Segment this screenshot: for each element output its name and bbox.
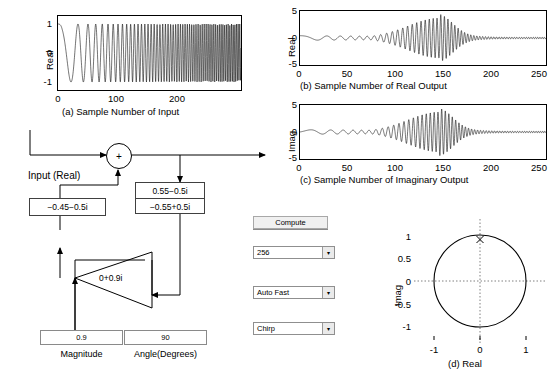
compute-button-label: Compute (275, 218, 305, 227)
chart-c-xtick-2: 100 (384, 162, 406, 173)
angle-field[interactable]: 90 (124, 330, 207, 345)
chart-a-axes (57, 15, 242, 91)
chart-b-xtick-1: 50 (339, 68, 355, 79)
compute-button[interactable]: Compute (253, 216, 328, 229)
gain-feed-path (152, 214, 180, 295)
chart-c-xtick-0: 0 (293, 162, 305, 173)
angle-label: Angle(Degrees) (124, 349, 207, 359)
chart-c-xtick-3: 150 (432, 162, 454, 173)
length-select[interactable]: 256 ▾ (253, 246, 335, 259)
chart-a-caption: (a) Sample Number of Input (62, 106, 179, 117)
magnitude-value: 0.9 (76, 333, 86, 342)
chart-b-ytick-1: 0 (289, 32, 297, 43)
chart-b-xtick-5: 250 (528, 68, 550, 79)
feedback-coef-top: 0.55−0.5i (136, 183, 204, 199)
length-select-value: 256 (254, 248, 322, 257)
chart-c-xtick-5: 250 (528, 162, 550, 173)
left-coefficient-box: −0.45−0.5i (29, 198, 106, 216)
angle-value: 90 (161, 333, 169, 342)
chart-b-xtick-2: 100 (384, 68, 406, 79)
chart-d-xtick-0: -1 (424, 344, 444, 355)
signal-select[interactable]: Chirp ▾ (253, 322, 335, 335)
chart-a-ytick-1: 0 (40, 47, 52, 58)
chart-c-trace (300, 105, 546, 159)
chart-b-ytick-0: 5 (289, 5, 297, 16)
input-path (30, 130, 106, 155)
chart-a-trace (58, 16, 241, 90)
feedback-coefficient-box: 0.55−0.5i −0.55+0.5i (135, 182, 205, 214)
chart-b-xtick-4: 200 (480, 68, 502, 79)
chart-d-ytick-4: -1 (389, 321, 411, 332)
chart-d-ytick-3: -0.5 (389, 299, 411, 310)
chart-b-xtick-0: 0 (293, 68, 305, 79)
chart-d-ytick-1: 0.5 (393, 253, 411, 264)
feedback-coef-bottom: −0.55+0.5i (136, 199, 204, 214)
chart-c-ytick-1: 0 (289, 126, 297, 137)
chart-a-ytick-2: -1 (36, 76, 52, 87)
signal-select-value: Chirp (254, 324, 322, 333)
adder-node: + (106, 143, 132, 169)
app-window: Real 1 0 -1 0 100 200 (a) Sample Number … (0, 0, 559, 381)
speed-select-value: Auto Fast (254, 288, 322, 297)
chart-d-xtick-1: 0 (470, 344, 490, 355)
chart-c-xtick-1: 50 (339, 162, 355, 173)
chart-c-ytick-0: 5 (289, 99, 297, 110)
chart-b-axes (299, 10, 547, 66)
chart-a-xtick-1: 100 (105, 93, 127, 104)
chart-c-axes (299, 104, 547, 160)
chart-d-xtick-2: 1 (516, 344, 536, 355)
chart-a-ytick-0: 1 (40, 18, 52, 29)
chevron-down-icon[interactable]: ▾ (322, 323, 334, 334)
chart-d-caption: (d) Real (448, 358, 482, 369)
adder-symbol: + (116, 151, 122, 162)
chevron-down-icon[interactable]: ▾ (322, 247, 334, 258)
magnitude-field[interactable]: 0.9 (40, 330, 123, 345)
left-coefficient-value: −0.45−0.5i (47, 202, 87, 212)
chart-b-trace (300, 11, 546, 65)
chart-a-xtick-2: 200 (166, 93, 188, 104)
chart-d-ytick-0: 1 (393, 231, 411, 242)
chart-b-xtick-3: 150 (432, 68, 454, 79)
speed-select[interactable]: Auto Fast ▾ (253, 286, 335, 299)
chart-a-xtick-0: 0 (51, 93, 65, 104)
chart-d-plot (410, 216, 550, 346)
chart-c-caption: (c) Sample Number of Imaginary Output (300, 174, 468, 185)
input-label: Input (Real) (28, 170, 80, 181)
chart-d-ytick-2: 0 (393, 276, 411, 287)
chart-b-caption: (b) Sample Number of Real Output (300, 80, 447, 91)
magnitude-label: Magnitude (40, 349, 123, 359)
gain-label: 0+0.9i (99, 273, 122, 283)
chevron-down-icon[interactable]: ▾ (322, 287, 334, 298)
chart-c-xtick-4: 200 (480, 162, 502, 173)
